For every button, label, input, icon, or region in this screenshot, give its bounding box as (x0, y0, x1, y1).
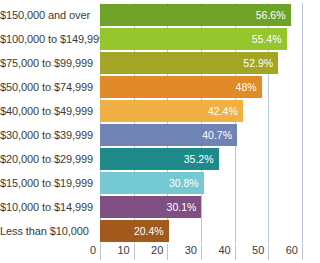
bar-row: 52.9% (100, 51, 302, 75)
bar[interactable]: 30.1% (100, 196, 201, 218)
bar-value-label: 20.4% (134, 220, 164, 242)
bar-value-label: 35.2% (184, 148, 214, 170)
tick-label: 60 (286, 244, 302, 256)
bar[interactable]: 55.4% (100, 28, 287, 50)
tick-mark (302, 244, 303, 260)
bar-row: 30.1% (100, 195, 302, 219)
tick-label: 40 (218, 244, 234, 256)
bar-value-label: 56.6% (256, 4, 286, 26)
bar-row: 55.4% (100, 27, 302, 51)
tick-label: 10 (117, 244, 133, 256)
bar-row: 40.7% (100, 123, 302, 147)
bar-row: 35.2% (100, 147, 302, 171)
category-axis: $150,000 and over$100,000 to $149,999$75… (0, 3, 92, 243)
tick-label: 30 (185, 244, 201, 256)
bar[interactable]: 42.4% (100, 100, 243, 122)
category-label: $40,000 to $49,999 (0, 99, 92, 123)
bar[interactable]: 20.4% (100, 220, 169, 242)
bar-row: 30.8% (100, 171, 302, 195)
bar[interactable]: 40.7% (100, 124, 237, 146)
bar-value-label: 48% (236, 76, 257, 98)
bar-row: 48% (100, 75, 302, 99)
category-label: $30,000 to $39,999 (0, 123, 92, 147)
bar-row: 20.4% (100, 219, 302, 243)
plot-area: 56.6%55.4%52.9%48%42.4%40.7%35.2%30.8%30… (100, 3, 302, 243)
bar-chart: $150,000 and over$100,000 to $149,999$75… (0, 0, 320, 263)
bar-value-label: 55.4% (252, 28, 282, 50)
bar[interactable]: 48% (100, 76, 262, 98)
bar[interactable]: 35.2% (100, 148, 219, 170)
bar[interactable]: 30.8% (100, 172, 204, 194)
bar-row: 42.4% (100, 99, 302, 123)
bar[interactable]: 56.6% (100, 4, 291, 26)
tick-mark (100, 244, 101, 260)
tick-label: 20 (151, 244, 167, 256)
category-label: $10,000 to $14,999 (0, 195, 92, 219)
gridline (302, 3, 303, 243)
bar[interactable]: 52.9% (100, 52, 278, 74)
category-label: Less than $10,000 (0, 219, 92, 243)
category-label: $100,000 to $149,999 (0, 27, 92, 51)
category-label: $20,000 to $29,999 (0, 147, 92, 171)
tick-mark (201, 244, 202, 260)
tick-mark (134, 244, 135, 260)
bar-value-label: 30.8% (169, 172, 199, 194)
tick-label: 0 (90, 244, 100, 256)
bar-value-label: 40.7% (202, 124, 232, 146)
category-label: $50,000 to $74,999 (0, 75, 92, 99)
tick-mark (268, 244, 269, 260)
category-label: $15,000 to $19,999 (0, 171, 92, 195)
value-axis: 0102030405060 (100, 244, 302, 262)
bar-value-label: 52.9% (243, 52, 273, 74)
category-label: $75,000 to $99,999 (0, 51, 92, 75)
tick-mark (167, 244, 168, 260)
bar-row: 56.6% (100, 3, 302, 27)
tick-label: 50 (252, 244, 268, 256)
bar-value-label: 30.1% (167, 196, 197, 218)
bar-series: 56.6%55.4%52.9%48%42.4%40.7%35.2%30.8%30… (100, 3, 302, 243)
category-label: $150,000 and over (0, 3, 92, 27)
tick-mark (235, 244, 236, 260)
bar-value-label: 42.4% (208, 100, 238, 122)
